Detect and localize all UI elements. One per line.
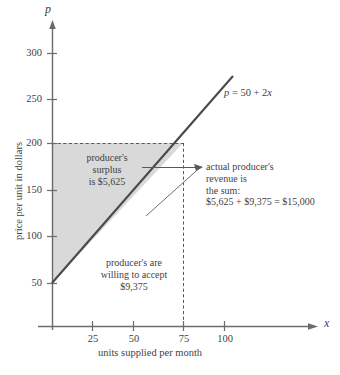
y-tick-label-50: 50 xyxy=(16,277,42,289)
y-axis-title: price per unit in dollars xyxy=(13,142,25,240)
x-tick-label-50: 50 xyxy=(121,333,147,345)
revenue-line-2: revenue is xyxy=(206,173,340,185)
y-tick-label-250: 250 xyxy=(16,93,42,105)
equation-variable-x: x xyxy=(267,87,272,98)
supply-equation-label: p = 50 + 2x xyxy=(224,87,272,99)
y-tick-label-300: 300 xyxy=(16,47,42,59)
revenue-line-4: $5,625 + $9,375 = $15,000 xyxy=(206,196,340,208)
x-axis-variable-label: x xyxy=(324,316,329,330)
accept-line-2: willing to accept xyxy=(79,269,189,281)
revenue-leader-line xyxy=(146,168,200,217)
x-axis-title: units supplied per month xyxy=(98,347,202,359)
producer-surplus-annotation: producer's surplus is $5,625 xyxy=(63,152,151,187)
surplus-line-3: is $5,625 xyxy=(63,176,151,188)
y-axis-arrowhead xyxy=(49,20,56,29)
x-tick-label-75: 75 xyxy=(171,333,197,345)
x-tick-label-100: 100 xyxy=(212,333,238,345)
supply-curve-figure: p x 300 250 200 150 100 50 25 50 75 100 … xyxy=(0,0,340,375)
actual-revenue-annotation: actual producer's revenue is the sum: $5… xyxy=(206,161,340,208)
willing-to-accept-annotation: producer's are willing to accept $9,375 xyxy=(79,257,189,292)
surplus-line-1: producer's xyxy=(63,152,151,164)
y-axis-variable-label: p xyxy=(45,2,51,16)
equation-body: = 50 + 2 xyxy=(229,87,267,98)
revenue-leader-arrowhead xyxy=(194,164,203,171)
revenue-line-1: actual producer's xyxy=(206,161,340,173)
accept-line-3: $9,375 xyxy=(79,281,189,293)
surplus-line-2: surplus xyxy=(63,164,151,176)
x-tick-label-25: 25 xyxy=(80,333,106,345)
revenue-line-3: the sum: xyxy=(206,185,340,197)
accept-line-1: producer's are xyxy=(79,257,189,269)
x-axis-arrowhead xyxy=(308,323,318,330)
